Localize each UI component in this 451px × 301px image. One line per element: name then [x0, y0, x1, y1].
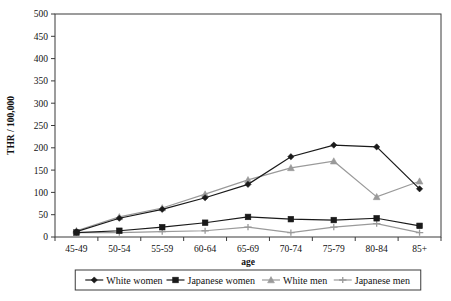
legend: White womenJapanese womenWhite menJapane…	[75, 270, 421, 290]
data-point	[245, 214, 251, 220]
x-tick-label: 45-49	[65, 244, 87, 254]
data-point	[74, 230, 80, 236]
y-tick-label: 50	[39, 210, 49, 220]
y-tick-label: 450	[34, 32, 49, 42]
x-axis-title: age	[241, 257, 255, 267]
legend-label: Japanese women	[188, 275, 255, 286]
data-point	[416, 229, 423, 235]
series-japanese-men	[73, 221, 424, 236]
y-tick-label: 200	[34, 143, 49, 153]
y-tick-label: 300	[34, 99, 49, 109]
plot-frame	[55, 14, 441, 237]
y-axis: 050100150200250300350400450500	[34, 9, 55, 242]
y-tick-label: 100	[34, 188, 49, 198]
data-point	[416, 178, 423, 184]
series-line	[76, 161, 419, 231]
data-point	[374, 215, 380, 221]
data-point	[159, 224, 165, 230]
data-point	[288, 154, 294, 160]
x-tick-label: 55-59	[151, 244, 173, 254]
y-tick-label: 500	[34, 9, 49, 19]
x-tick-label: 70-74	[280, 244, 302, 254]
x-tick-label: 65-69	[237, 244, 259, 254]
x-tick-label: 60-64	[194, 244, 216, 254]
y-axis-title: THR / 100,000	[6, 96, 16, 155]
data-point	[117, 228, 123, 234]
y-tick-label: 150	[34, 166, 49, 176]
data-point	[373, 221, 380, 227]
legend-label: White men	[283, 275, 327, 286]
x-tick-label: 85+	[412, 244, 427, 254]
data-point	[202, 220, 208, 226]
y-tick-label: 400	[34, 54, 49, 64]
data-point	[288, 216, 294, 222]
y-tick-label: 250	[34, 121, 49, 131]
line-chart: 050100150200250300350400450500THR / 100,…	[0, 0, 451, 301]
x-tick-label: 75-79	[323, 244, 345, 254]
legend-marker	[173, 277, 179, 283]
legend-label: Japanese men	[355, 275, 410, 286]
chart-container: 050100150200250300350400450500THR / 100,…	[0, 0, 451, 301]
data-point	[331, 217, 337, 223]
data-point	[287, 229, 294, 235]
x-axis: 45-4950-5455-5960-6465-6970-7475-7980-84…	[55, 237, 441, 254]
x-tick-label: 50-54	[108, 244, 130, 254]
data-point	[201, 228, 208, 234]
data-point	[331, 142, 337, 148]
y-tick-label: 350	[34, 76, 49, 86]
data-point	[330, 158, 337, 164]
data-point	[417, 223, 423, 229]
series-white-women	[73, 142, 422, 235]
legend-label: White women	[106, 275, 162, 286]
data-point	[330, 224, 337, 230]
series-white-men	[73, 158, 423, 234]
y-tick-label: 0	[43, 232, 48, 242]
x-tick-label: 80-84	[366, 244, 388, 254]
data-point	[244, 224, 251, 230]
